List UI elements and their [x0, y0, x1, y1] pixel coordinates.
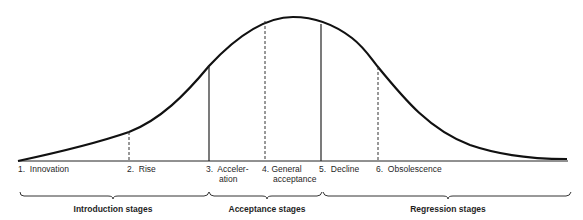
stage-number: 1.	[18, 164, 25, 174]
stage-name: Innovation	[30, 164, 69, 174]
stage-name-cont: acceptance	[262, 174, 316, 184]
stage-number: 6.	[376, 164, 383, 174]
life-cycle-diagram	[0, 0, 583, 220]
stage-number: 2.	[127, 164, 134, 174]
stage-label-obsolescence: 6. Obsolescence	[376, 164, 442, 174]
stage-name: Decline	[331, 164, 359, 174]
stage-name: Acceler-	[217, 164, 248, 174]
brace-regression	[323, 192, 571, 199]
stage-label-decline: 5. Decline	[319, 164, 359, 174]
stage-name: Obsolescence	[388, 164, 442, 174]
group-label-regression: Regression stages	[410, 204, 486, 214]
stage-number: 5.	[319, 164, 326, 174]
stage-label-innovation: 1. Innovation	[18, 164, 69, 174]
stage-label-rise: 2. Rise	[127, 164, 156, 174]
stage-label-acceleration: 3. Acceler- ation	[206, 164, 249, 184]
group-label-introduction: Introduction stages	[74, 204, 153, 214]
stage-name: General	[271, 164, 301, 174]
stage-name: Rise	[139, 164, 156, 174]
life-cycle-curve	[18, 17, 567, 161]
stage-label-general-acceptance: 4. General acceptance	[262, 164, 316, 184]
group-label-acceptance: Acceptance stages	[228, 204, 305, 214]
brace-acceptance	[209, 192, 322, 199]
stage-name-cont: ation	[206, 174, 237, 184]
stage-number: 4.	[262, 164, 269, 174]
stage-number: 3.	[206, 164, 213, 174]
brace-introduction	[20, 192, 209, 199]
